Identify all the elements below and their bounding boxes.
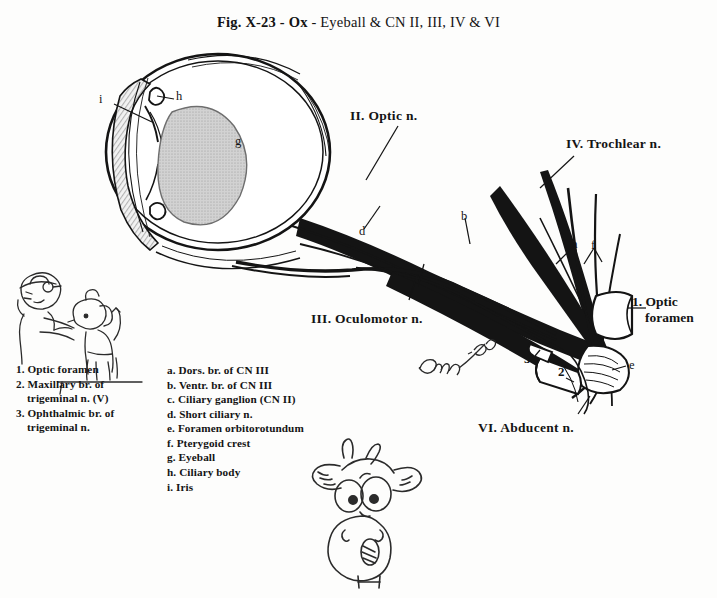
legend-item-1: 1. Optic foramen	[16, 362, 114, 377]
artist-signature	[419, 340, 495, 375]
legend-item-h-text: Ciliary body	[179, 466, 240, 478]
legend-item-f-text: Pterygoid crest	[177, 437, 251, 449]
label-optic-nerve: II. Optic n.	[350, 108, 417, 124]
legend-item-3-line1: Ophthalmic br. of	[28, 407, 115, 419]
marker-b-ventral-br-cn3: b	[461, 209, 467, 224]
legend-item-g-key: g.	[167, 451, 176, 463]
marker-g-eyeball: g	[235, 134, 241, 149]
callout-optic-foramen: 1. Optic foramen	[632, 294, 694, 327]
anatomical-illustration	[0, 0, 717, 598]
legend-numbered-list: 1. Optic foramen 2. Maxillary br. of tri…	[16, 362, 114, 435]
legend-item-a-key: a.	[167, 364, 176, 376]
eyeball-drawing	[106, 54, 330, 269]
marker-3-ophthalmic-br: 3	[524, 351, 531, 366]
legend-item-1-line1: Optic foramen	[28, 363, 99, 375]
callout-optic-foramen-line1: 1. Optic	[632, 294, 678, 309]
legend-item-3: 3. Ophthalmic br. of trigeminal n.	[16, 406, 114, 435]
legend-item-b-key: b.	[167, 379, 176, 391]
legend-item-2: 2. Maxillary br. of trigeminal n. (V)	[16, 377, 114, 406]
callout-optic-foramen-line2: foramen	[632, 310, 694, 326]
legend-item-e-text: Foramen orbitorotundum	[178, 422, 304, 434]
marker-c-ciliary-ganglion: c	[414, 283, 420, 298]
legend-item-1-key: 1.	[16, 363, 25, 375]
legend-item-f-key: f.	[167, 437, 174, 449]
legend-item-g: g. Eyeball	[167, 450, 304, 465]
marker-a-dorsal-br-cn3: a	[572, 237, 578, 252]
label-oculomotor-nerve: III. Oculomotor n.	[311, 311, 423, 327]
marker-f-pterygoid-crest: f	[591, 238, 595, 253]
legend-item-h: h. Ciliary body	[167, 465, 304, 480]
legend-item-b: b. Ventr. br. of CN III	[167, 378, 304, 393]
legend-item-3-line2: trigeminal n.	[16, 420, 114, 435]
legend-lettered-list: a. Dors. br. of CN III b. Ventr. br. of …	[167, 363, 304, 494]
legend-item-h-key: h.	[167, 466, 176, 478]
legend-item-2-key: 2.	[16, 378, 25, 390]
legend-item-2-line1: Maxillary br. of	[28, 378, 105, 390]
legend-item-3-key: 3.	[16, 407, 25, 419]
ox-head-cartoon	[312, 439, 421, 588]
legend-item-f: f. Pterygoid crest	[167, 436, 304, 451]
legend-item-b-text: Ventr. br. of CN III	[179, 379, 272, 391]
marker-e-foramen-orbitorotundum: e	[629, 358, 635, 373]
legend-item-a-text: Dors. br. of CN III	[179, 364, 269, 376]
label-trochlear-nerve: IV. Trochlear n.	[566, 136, 661, 152]
legend-item-d-text: Short ciliary n.	[179, 408, 252, 420]
figure-root: Fig. X-23 - Ox - Eyeball & CN II, III, I…	[0, 0, 717, 598]
legend-item-d: d. Short ciliary n.	[167, 407, 304, 422]
legend-item-a: a. Dors. br. of CN III	[167, 363, 304, 378]
legend-item-c-text: Ciliary ganglion (CN II)	[178, 393, 296, 405]
legend-item-d-key: d.	[167, 408, 176, 420]
legend-item-2-line2: trigeminal n. (V)	[16, 391, 114, 406]
marker-d-short-ciliary-n: d	[359, 224, 365, 239]
marker-h-ciliary-body: h	[176, 89, 182, 104]
label-abducent-nerve: VI. Abducent n.	[478, 420, 574, 436]
legend-item-c: c. Ciliary ganglion (CN II)	[167, 392, 304, 407]
marker-2-maxillary-br: 2	[558, 364, 565, 379]
legend-item-i-text: Iris	[176, 481, 193, 493]
legend-item-i-key: i.	[167, 481, 173, 493]
legend-item-i: i. Iris	[167, 480, 304, 495]
marker-i-iris: i	[99, 92, 102, 107]
legend-item-e-key: e.	[167, 422, 175, 434]
legend-item-c-key: c.	[167, 393, 175, 405]
legend-item-e: e. Foramen orbitorotundum	[167, 421, 304, 436]
legend-item-g-text: Eyeball	[179, 451, 216, 463]
